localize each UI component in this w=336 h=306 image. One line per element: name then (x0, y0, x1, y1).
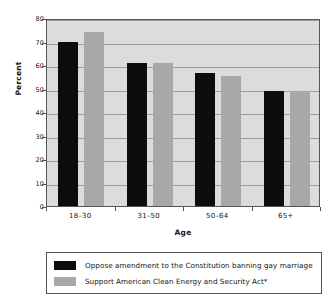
legend-entry-oppose: Oppose amendment to the Constitution ban… (54, 258, 313, 272)
y-axis-tick-label: 10 (14, 180, 44, 188)
legend-label-series-0: Oppose amendment to the Constitution ban… (85, 261, 313, 270)
y-axis-title: Percent (14, 44, 23, 114)
bar (58, 42, 78, 207)
x-axis-tick-mark (320, 207, 321, 211)
x-axis-tick-label: 50–64 (182, 212, 252, 220)
y-axis-tick-label: 70 (14, 39, 44, 47)
bar (84, 32, 104, 206)
legend-swatch-icon-series-0 (54, 261, 76, 270)
gridline (47, 20, 319, 21)
bar (127, 63, 147, 206)
y-axis-tick-label: 30 (14, 133, 44, 141)
plot-area (46, 19, 320, 207)
bar-chart-figure: Percent 01020304050607080 18–3031–5050–6… (0, 0, 336, 306)
bar (195, 73, 215, 206)
y-axis-tick-label: 40 (14, 109, 44, 117)
legend-entry-support: Support American Clean Energy and Securi… (54, 274, 267, 288)
x-axis-tick-label: 31–50 (114, 212, 184, 220)
x-axis-title: Age (46, 228, 320, 237)
legend-label-series-1: Support American Clean Energy and Securi… (85, 277, 267, 286)
x-axis-tick-label: 18–30 (45, 212, 115, 220)
y-axis-tick-label: 0 (14, 203, 44, 211)
legend-swatch-icon-series-1 (54, 277, 76, 286)
y-axis-tick-label: 60 (14, 62, 44, 70)
x-axis-tick-label: 65+ (251, 212, 321, 220)
x-axis-tick-mark (252, 207, 253, 211)
legend: Oppose amendment to the Constitution ban… (46, 252, 322, 294)
bar (290, 91, 310, 206)
bar (221, 76, 241, 206)
y-axis-tick-label: 50 (14, 86, 44, 94)
bar (264, 91, 284, 206)
x-axis-tick-mark (46, 207, 47, 211)
y-axis-tick-label: 20 (14, 156, 44, 164)
y-axis-tick-label: 80 (14, 15, 44, 23)
x-axis-tick-mark (183, 207, 184, 211)
bar (153, 63, 173, 206)
x-axis-tick-mark (115, 207, 116, 211)
